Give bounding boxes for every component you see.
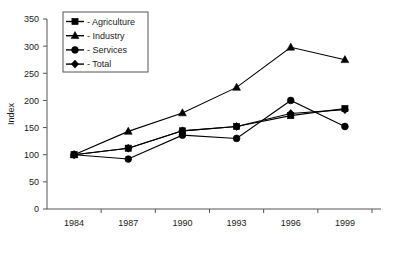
y-tick-label: 50	[29, 177, 39, 187]
x-tick-label: 1984	[64, 218, 84, 228]
x-tick-label: 1999	[335, 218, 355, 228]
legend-marker-square-icon	[72, 18, 78, 24]
series-line	[74, 109, 345, 155]
x-tick-label: 1993	[227, 218, 247, 228]
x-tick-label: 1987	[118, 218, 138, 228]
chart-canvas: 0501001502002503003501984198719901993199…	[0, 0, 404, 253]
line-chart: 0501001502002503003501984198719901993199…	[0, 0, 404, 253]
x-tick-label: 1990	[172, 218, 192, 228]
data-point-marker	[287, 97, 294, 104]
legend-marker-circle-icon	[72, 47, 79, 54]
y-tick-label: 250	[24, 69, 39, 79]
series-services	[71, 97, 349, 162]
y-tick-label: 150	[24, 123, 39, 133]
y-tick-label: 300	[24, 42, 39, 52]
data-point-marker	[233, 83, 241, 90]
data-point-marker	[125, 156, 132, 163]
y-tick-label: 350	[24, 14, 39, 24]
legend-label: - Industry	[87, 31, 125, 41]
y-tick-label: 100	[24, 150, 39, 160]
data-point-marker	[342, 123, 349, 130]
y-axis-title: Index	[6, 102, 16, 125]
data-point-marker	[179, 109, 187, 116]
data-point-marker	[233, 135, 240, 142]
legend-label: - Total	[87, 59, 111, 69]
legend-label: - Services	[87, 45, 128, 55]
legend-label: - Agriculture	[87, 17, 135, 27]
y-tick-label: 200	[24, 96, 39, 106]
series-line	[74, 110, 345, 155]
x-tick-label: 1996	[281, 218, 301, 228]
legend: - Agriculture- Industry- Services- Total	[63, 12, 148, 72]
data-point-marker	[287, 43, 295, 50]
y-tick-label: 0	[34, 204, 39, 214]
